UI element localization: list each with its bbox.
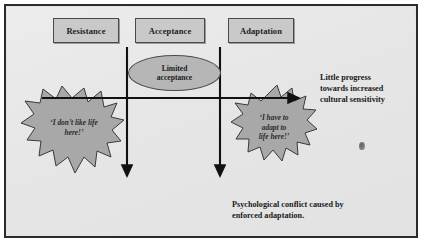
stage-box-resistance[interactable]: Resistance — [53, 18, 119, 43]
caption-progress-line-3: cultural sensitivity — [320, 94, 420, 105]
caption-little-progress: Little progress towards increased cultur… — [320, 72, 420, 106]
stage-box-acceptance[interactable]: Acceptance — [135, 18, 205, 43]
caption-progress-line-1: Little progress — [320, 72, 420, 83]
caption-conflict-line-1: Psychological conflict caused by — [232, 199, 402, 210]
stage-box-adaptation[interactable]: Adaptation — [228, 18, 294, 43]
scan-artifact-smudge — [359, 142, 365, 150]
ellipse-limited-acceptance[interactable]: Limited acceptance — [128, 55, 221, 91]
starburst-adaptation — [231, 85, 317, 161]
caption-progress-line-2: towards increased — [320, 83, 420, 94]
stage-label-resistance: Resistance — [66, 26, 105, 36]
stage-label-adaptation: Adaptation — [240, 26, 282, 36]
ellipse-line-2: acceptance — [157, 73, 192, 83]
ellipse-line-1: Limited — [162, 64, 188, 74]
stage-label-acceptance: Acceptance — [149, 26, 192, 36]
caption-psychological-conflict: Psychological conflict caused by enforce… — [232, 199, 402, 221]
caption-conflict-line-2: enforced adaptation. — [232, 210, 402, 221]
diagram-figure: Resistance Acceptance Adaptation Limited… — [0, 0, 425, 246]
